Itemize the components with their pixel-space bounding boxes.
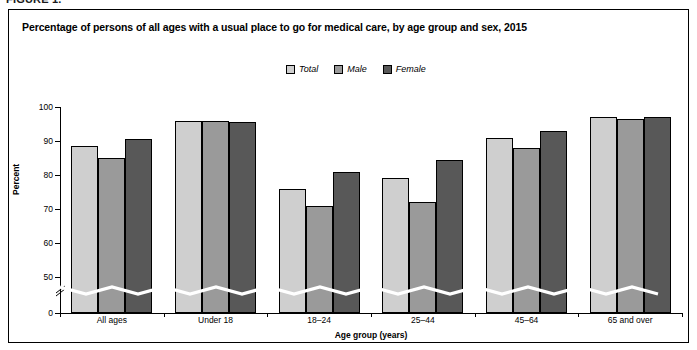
bar-total[interactable] <box>590 117 617 313</box>
bar-male[interactable] <box>617 119 644 313</box>
bar-male[interactable] <box>98 158 125 313</box>
x-tick <box>682 313 683 317</box>
bar-female[interactable] <box>436 160 463 313</box>
bar-male[interactable] <box>513 148 540 313</box>
bar-group <box>164 107 268 313</box>
plot-area: 05060708090100 <box>60 107 682 313</box>
y-axis-title: Percent <box>11 164 21 195</box>
chart-legend: Total Male Female <box>286 64 426 74</box>
bar-total[interactable] <box>71 146 98 313</box>
bars <box>475 107 579 313</box>
legend-label-female: Female <box>396 64 426 74</box>
legend-item-total: Total <box>286 64 318 74</box>
y-tick-label-60: 60 <box>44 238 53 248</box>
bars <box>60 107 164 313</box>
bars <box>267 107 371 313</box>
x-label: 65 and over <box>578 315 682 325</box>
bar-group <box>60 107 164 313</box>
bars <box>578 107 682 313</box>
bar-male[interactable] <box>202 121 229 313</box>
bar-male[interactable] <box>409 202 436 313</box>
bars <box>371 107 475 313</box>
legend-swatch-female <box>383 65 392 74</box>
legend-label-total: Total <box>299 64 318 74</box>
bar-total[interactable] <box>382 178 409 313</box>
figure-container: FIGURE 1. Percentage of persons of all a… <box>0 0 697 350</box>
bar-groups <box>60 107 682 313</box>
bar-female[interactable] <box>229 122 256 313</box>
bar-group <box>267 107 371 313</box>
bar-group <box>371 107 475 313</box>
bar-group <box>475 107 579 313</box>
legend-swatch-male <box>334 65 343 74</box>
bars <box>164 107 268 313</box>
y-tick-label-50: 50 <box>44 272 53 282</box>
bar-female[interactable] <box>644 117 671 313</box>
bar-male[interactable] <box>306 206 333 313</box>
y-tick-label-90: 90 <box>44 136 53 146</box>
legend-item-female: Female <box>383 64 426 74</box>
x-label: 25–44 <box>371 315 475 325</box>
x-label: Under 18 <box>164 315 268 325</box>
legend-swatch-total <box>286 65 295 74</box>
x-axis-category-labels: All agesUnder 1818–2425–4445–6465 and ov… <box>60 315 682 325</box>
chart-title: Percentage of persons of all ages with a… <box>22 21 662 33</box>
bar-total[interactable] <box>175 121 202 313</box>
bar-total[interactable] <box>279 189 306 313</box>
figure-number-label: FIGURE 1. <box>6 0 62 5</box>
x-label: 45–64 <box>475 315 579 325</box>
x-label: 18–24 <box>267 315 371 325</box>
bar-female[interactable] <box>125 139 152 313</box>
bar-female[interactable] <box>540 131 567 313</box>
x-axis-title: Age group (years) <box>60 330 682 340</box>
y-tick-label-80: 80 <box>44 170 53 180</box>
y-tick-label-0: 0 <box>48 308 53 318</box>
legend-label-male: Male <box>347 64 367 74</box>
y-tick-label-70: 70 <box>44 204 53 214</box>
bar-female[interactable] <box>333 172 360 313</box>
bar-group <box>578 107 682 313</box>
x-label: All ages <box>60 315 164 325</box>
legend-item-male: Male <box>334 64 367 74</box>
bar-total[interactable] <box>486 138 513 313</box>
y-tick-label-100: 100 <box>39 102 53 112</box>
